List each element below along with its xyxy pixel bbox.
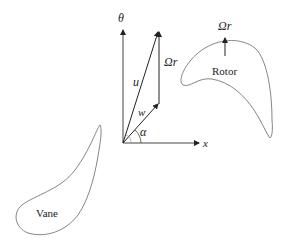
velocity-diagram: θ x u w Ωr α Ωr Rotor Vane bbox=[0, 0, 288, 241]
rotor-omega-r-label: Ωr bbox=[218, 19, 232, 33]
u-vector-label: u bbox=[133, 75, 139, 89]
rotor-label: Rotor bbox=[212, 65, 237, 77]
w-vector-label: w bbox=[138, 106, 146, 118]
rotor-blade bbox=[181, 41, 272, 139]
x-axis-label: x bbox=[202, 137, 208, 149]
theta-axis-label: θ bbox=[118, 11, 124, 25]
omega-r-vector-label: Ωr bbox=[164, 55, 178, 69]
vane-label: Vane bbox=[36, 207, 58, 219]
alpha-angle-label: α bbox=[140, 125, 147, 139]
vane-blade bbox=[16, 125, 101, 235]
